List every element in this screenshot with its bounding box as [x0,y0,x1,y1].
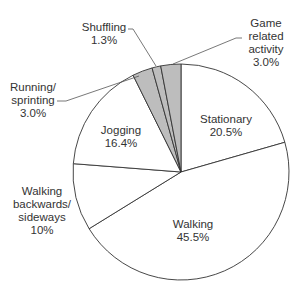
leader-line-game-related-activity [173,38,242,64]
label-line: sideways [18,211,66,223]
label-line: 16.4% [105,137,138,149]
label-jogging: Jogging16.4% [101,124,141,149]
label-line: Walking [173,218,213,230]
label-line: 3.0% [20,107,46,119]
label-line: related [248,30,283,42]
label-line: Stationary [200,113,252,125]
label-line: 10% [30,224,53,236]
label-line: Game [250,17,281,29]
label-line: Running/ [10,81,57,93]
label-line: 3.0% [253,56,279,68]
label-running-sprinting: Running/sprinting3.0% [10,81,57,119]
label-line: sprinting [11,94,54,106]
label-walking: Walking45.5% [173,218,213,243]
pie-chart: Stationary20.5%Walking45.5%Walkingbackwa… [0,0,300,294]
label-line: backwards/ [13,198,72,210]
label-line: 45.5% [177,231,210,243]
leader-line-shuffling [128,29,156,66]
label-line: 20.5% [210,126,243,138]
label-line: Jogging [101,124,141,136]
label-line: Shuffling [82,21,127,33]
pie-slices [73,64,289,280]
label-shuffling: Shuffling1.3% [82,21,127,46]
label-game-related-activity: Gamerelatedactivity3.0% [248,17,283,68]
label-line: 1.3% [91,34,117,46]
label-line: Walking [22,185,62,197]
label-line: activity [248,43,283,55]
label-walking-backwards-sideways: Walkingbackwards/sideways10% [13,185,72,236]
